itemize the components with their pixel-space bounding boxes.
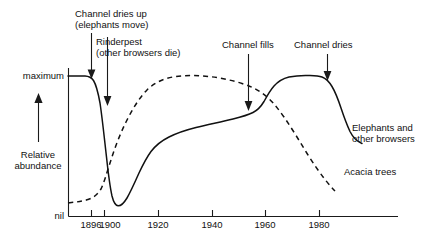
x-axis-ticks xyxy=(92,210,320,217)
annotation-channel-dries-label: Channel dries xyxy=(294,39,353,50)
y-axis-title-line2: abundance xyxy=(14,160,61,171)
annotation-channel-dries-up-label-line1: Channel dries up xyxy=(75,8,147,19)
y-axis-labels: maximum nil xyxy=(23,70,64,221)
annotation-rinderpest: Rinderpest (other browsers die) xyxy=(96,36,180,106)
series-label-elephants-line1: Elephants and xyxy=(352,122,413,133)
x-tick-label-5: 1980 xyxy=(308,219,329,230)
y-axis-direction-arrow-head xyxy=(34,93,42,103)
series-elephants-browsers-curve xyxy=(68,75,362,205)
series-acacia-trees-curve xyxy=(68,75,335,203)
relative-abundance-axis-label-group: Relative abundance xyxy=(14,93,61,171)
annotation-channel-dries-up-label-line2: (elephants move) xyxy=(75,19,148,30)
annotation-channel-dries-arrow-head xyxy=(324,71,332,81)
annotation-rinderpest-label-line2: (other browsers die) xyxy=(96,47,180,58)
chart-axes xyxy=(69,68,399,217)
annotation-channel-fills-label: Channel fills xyxy=(222,39,274,50)
x-tick-label-0: 1896 xyxy=(80,219,101,230)
x-tick-label-2: 1920 xyxy=(147,219,168,230)
annotation-rinderpest-label-line1: Rinderpest xyxy=(96,36,142,47)
relative-abundance-line-chart: 1896 1900 1920 1940 1960 1980 maximum ni… xyxy=(0,0,431,252)
y-axis-title-line1: Relative xyxy=(21,149,55,160)
series-label-acacia: Acacia trees xyxy=(344,166,397,177)
series-inline-labels: Elephants and other browsers Acacia tree… xyxy=(344,122,415,177)
series-label-elephants-line2: other browsers xyxy=(352,133,415,144)
y-axis-max-label: maximum xyxy=(23,70,64,81)
x-tick-label-3: 1940 xyxy=(201,219,222,230)
annotation-channel-fills-arrow-head xyxy=(245,101,253,111)
x-tick-label-4: 1960 xyxy=(254,219,275,230)
x-tick-label-1: 1900 xyxy=(99,219,120,230)
annotation-rinderpest-arrow-head xyxy=(104,96,112,106)
chart-series-group xyxy=(68,75,362,205)
y-axis-min-label: nil xyxy=(54,210,64,221)
annotation-channel-dries-up-arrow-head xyxy=(88,70,96,80)
chart-container: 1896 1900 1920 1940 1960 1980 maximum ni… xyxy=(0,0,431,252)
annotation-channel-fills: Channel fills xyxy=(222,39,274,111)
x-axis-tick-labels: 1896 1900 1920 1940 1960 1980 xyxy=(80,219,329,230)
